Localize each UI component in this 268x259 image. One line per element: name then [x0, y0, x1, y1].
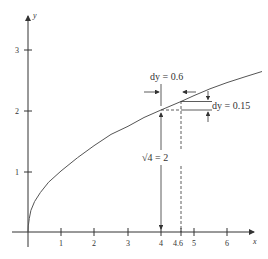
dx-label: dy = 0.6	[150, 71, 183, 82]
diagram-canvas: 1 2 3 4 4.6 5 6 x 1 2 3 y dy = 0.6 dy = …	[0, 0, 268, 259]
y-tick-label: 1	[15, 168, 19, 177]
sqrt-label: √4 = 2	[142, 152, 168, 163]
dy-label: dy = 0.15	[212, 100, 250, 111]
x-tick-label: 2	[92, 239, 96, 248]
x-tick-label: 5	[192, 239, 196, 248]
x-tick-label: 1	[59, 239, 63, 248]
y-tick-label: 3	[15, 46, 19, 55]
x-tick-label: 4.6	[173, 239, 183, 248]
y-tick-label: 2	[15, 107, 19, 116]
x-tick-label: 6	[225, 239, 229, 248]
x-tick-label: 4	[159, 239, 163, 248]
sqrt-differential-diagram: 1 2 3 4 4.6 5 6 x 1 2 3 y dy = 0.6 dy = …	[0, 0, 268, 259]
x-axis-label: x	[252, 237, 257, 246]
y-axis-label: y	[32, 11, 37, 20]
x-tick-label: 3	[126, 239, 130, 248]
